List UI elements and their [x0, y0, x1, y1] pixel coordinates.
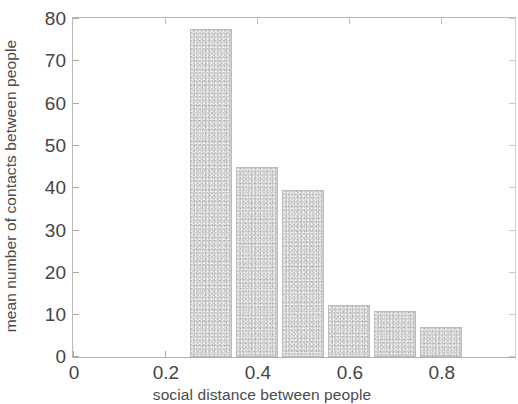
y-tick-label: 50 [45, 135, 66, 157]
y-tick-mark-right [509, 230, 515, 231]
y-tick-mark: 70 [73, 60, 79, 61]
y-tick-mark: 60 [73, 103, 79, 104]
y-tick-mark: 50 [73, 145, 79, 146]
y-tick-mark: 80 [73, 18, 79, 19]
y-tick-mark-right [509, 356, 515, 357]
x-tick-mark: 0.2 [165, 351, 166, 357]
bar [236, 167, 277, 357]
x-tick-mark-top [165, 18, 166, 24]
bar [190, 29, 231, 357]
y-tick-label: 30 [45, 220, 66, 242]
y-tick-mark-right [509, 272, 515, 273]
x-tick-mark-top [441, 18, 442, 24]
x-tick-label: 0 [69, 362, 80, 384]
y-tick-label: 70 [45, 50, 66, 72]
y-tick-mark-right [509, 103, 515, 104]
y-tick-mark: 30 [73, 230, 79, 231]
bar [420, 327, 461, 357]
x-axis-title: social distance between people [72, 385, 452, 404]
y-tick-label: 20 [45, 262, 66, 284]
x-tick-label: 0.2 [153, 362, 179, 384]
y-tick-label: 40 [45, 177, 66, 199]
x-tick-label: 0.6 [337, 362, 363, 384]
y-tick-label: 80 [45, 8, 66, 30]
y-tick-mark: 40 [73, 187, 79, 188]
y-tick-label: 0 [55, 346, 66, 368]
y-tick-mark-right [509, 187, 515, 188]
y-tick-mark: 20 [73, 272, 79, 273]
y-tick-mark: 10 [73, 314, 79, 315]
plot-inner: 0102030405060708000.20.40.60.8 [73, 18, 515, 357]
x-tick-mark: 0 [73, 351, 74, 357]
y-tick-label: 10 [45, 304, 66, 326]
x-tick-mark-top [349, 18, 350, 24]
bar-chart-figure: mean number of contacts between people s… [0, 0, 518, 404]
y-tick-mark-right [509, 145, 515, 146]
x-tick-label: 0.4 [245, 362, 271, 384]
bar [328, 305, 369, 357]
y-tick-label: 60 [45, 93, 66, 115]
plot-area: 0102030405060708000.20.40.60.8 [72, 17, 516, 358]
x-tick-mark-top [257, 18, 258, 24]
y-tick-mark-right [509, 60, 515, 61]
y-axis-title: mean number of contacts between people [0, 6, 22, 366]
y-tick-mark-right [509, 18, 515, 19]
x-tick-label: 0.8 [429, 362, 455, 384]
y-tick-mark-right [509, 314, 515, 315]
bar [374, 311, 415, 357]
bar [282, 190, 323, 357]
